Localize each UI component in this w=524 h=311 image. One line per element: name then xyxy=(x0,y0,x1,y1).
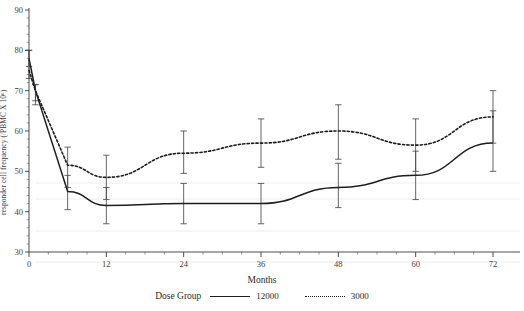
legend-title: Dose Group xyxy=(155,291,201,301)
legend-swatch-solid-icon xyxy=(210,296,250,297)
y-tick-label-60: 60 xyxy=(15,126,24,136)
chart-plot-area: 908070605040300122436486072 xyxy=(0,0,524,311)
x-tick-label-24: 24 xyxy=(179,259,188,269)
x-tick-label-36: 36 xyxy=(257,259,266,269)
y-tick-label-30: 30 xyxy=(15,247,24,257)
y-tick-label-70: 70 xyxy=(15,86,24,96)
x-tick-label-48: 48 xyxy=(334,259,343,269)
legend-item-3000[interactable]: 3000 xyxy=(305,291,369,301)
y-tick-label-80: 80 xyxy=(15,45,24,55)
legend-label-12000: 12000 xyxy=(256,291,279,301)
y-tick-label-50: 50 xyxy=(15,166,24,176)
chart-legend: Dose Group 12000 3000 xyxy=(0,291,524,301)
x-tick-label-12: 12 xyxy=(102,259,111,269)
x-tick-label-0: 0 xyxy=(27,259,31,269)
x-tick-label-60: 60 xyxy=(411,259,420,269)
y-tick-label-40: 40 xyxy=(15,207,24,217)
y-tick-label-90: 90 xyxy=(15,5,24,15)
legend-swatch-dotted-icon xyxy=(305,296,345,297)
x-tick-label-72: 72 xyxy=(489,259,498,269)
chart-container: responder cell frequency (/PBMC X 10⁶) 9… xyxy=(0,0,524,311)
legend-label-3000: 3000 xyxy=(351,291,369,301)
legend-item-12000[interactable]: 12000 xyxy=(210,291,279,301)
x-axis-title: Months xyxy=(0,275,524,285)
